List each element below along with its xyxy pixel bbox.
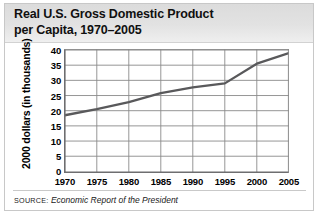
y-axis-tick-label: 35 <box>35 60 61 71</box>
chart-plot-area: 2000 dollars (in thousands) 051015202530… <box>5 44 313 191</box>
y-axis-tick-label: 20 <box>35 105 61 116</box>
source-divider <box>13 190 306 191</box>
data-series-line <box>65 53 289 115</box>
vertical-gridlines <box>97 49 257 171</box>
y-axis-tick-label: 15 <box>35 120 61 131</box>
y-axis-tick-label: 10 <box>35 136 61 147</box>
chart-title-line-1: Real U.S. Gross Domestic Product <box>14 7 307 23</box>
y-axis-tick-label: 25 <box>35 90 61 101</box>
x-axis-tick-label: 1990 <box>183 176 203 187</box>
y-axis-tick-label: 30 <box>35 75 61 86</box>
x-axis-tick-label: 1995 <box>215 176 235 187</box>
chart-header: Real U.S. Gross Domestic Product per Cap… <box>5 4 313 43</box>
x-axis-tick-label: 1970 <box>55 176 75 187</box>
y-axis-tick-label: 40 <box>35 45 61 56</box>
x-axis-tick-label: 2005 <box>279 176 299 187</box>
line-chart-svg <box>64 49 289 173</box>
y-axis-tick-label: 5 <box>35 151 61 162</box>
x-axis-tick-label: 1985 <box>151 176 171 187</box>
chart-title-line-2: per Capita, 1970–2005 <box>14 23 307 39</box>
chart-figure: Real U.S. Gross Domestic Product per Cap… <box>4 3 314 211</box>
chart-title: Real U.S. Gross Domestic Product per Cap… <box>14 7 307 38</box>
x-axis-tick-label: 1980 <box>119 176 139 187</box>
plot-canvas <box>64 49 289 173</box>
y-axis-label: 2000 dollars (in thousands) <box>20 41 32 169</box>
source-citation: Economic Report of the President <box>51 195 178 205</box>
x-axis-tick-label: 2000 <box>247 176 267 187</box>
y-axis-tick-labels: 0510152025303540 <box>35 44 61 191</box>
source-prefix: SOURCE: <box>14 196 49 205</box>
source-note: SOURCE: Economic Report of the President <box>14 195 178 205</box>
x-axis-tick-label: 1975 <box>87 176 107 187</box>
